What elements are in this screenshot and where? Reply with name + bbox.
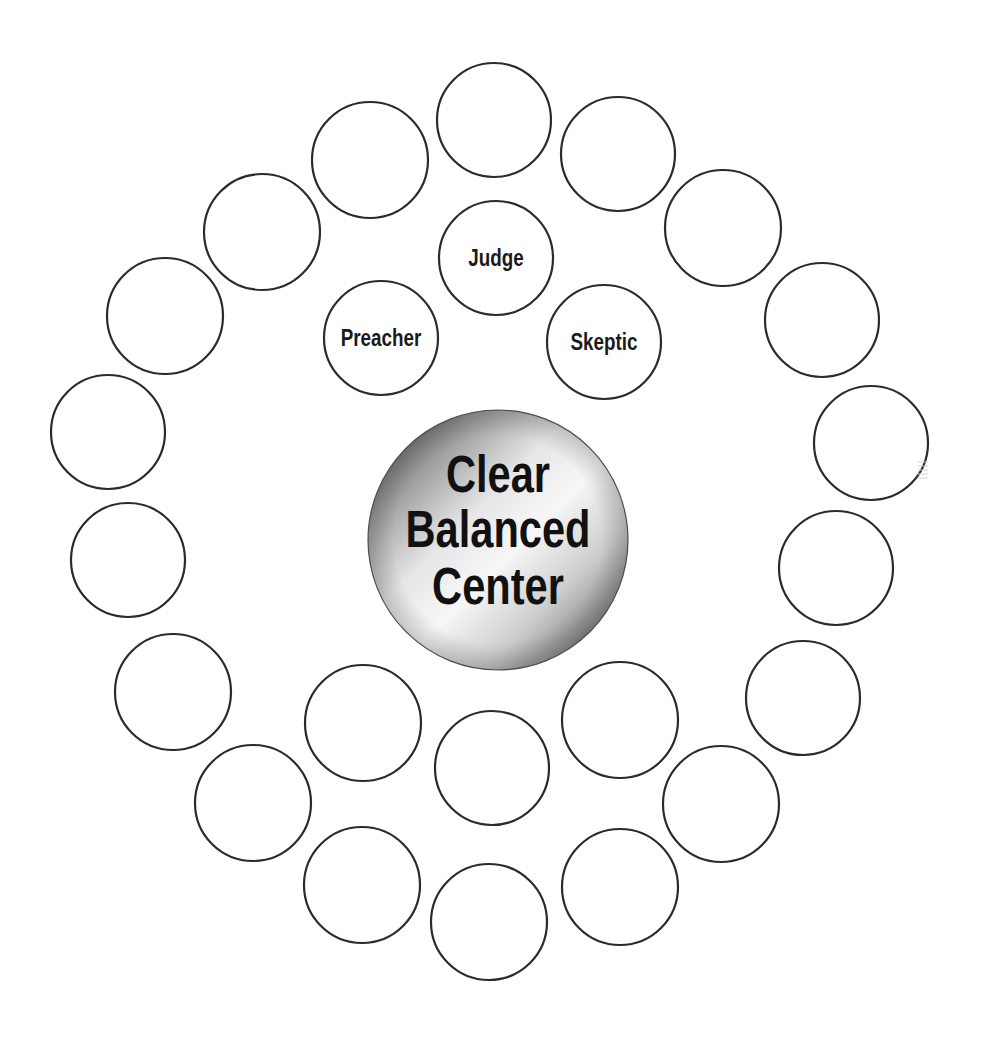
empty-circle [195, 745, 311, 861]
center-sphere-group: Clear Balanced Center [368, 410, 628, 670]
empty-circle [779, 511, 893, 625]
empty-circle [765, 263, 879, 377]
empty-circle [437, 63, 551, 177]
empty-circle [115, 634, 231, 750]
role-circle-judge: Judge [439, 201, 553, 315]
center-label-line-2: Balanced [406, 500, 591, 559]
empty-circle [561, 97, 675, 211]
empty-circle [312, 102, 428, 218]
balanced-center-diagram: Judge Preacher Skeptic Clear Balanced Ce… [0, 0, 992, 1040]
empty-circle [665, 170, 781, 286]
empty-circle [663, 746, 779, 862]
empty-circle [71, 503, 185, 617]
empty-circle [562, 662, 678, 778]
role-circle-skeptic: Skeptic [547, 285, 661, 399]
empty-circle [305, 665, 421, 781]
empty-circle [51, 375, 165, 489]
empty-circle [107, 258, 223, 374]
role-circles-group: Judge Preacher Skeptic [324, 201, 661, 399]
center-label-line-1: Clear [446, 445, 550, 504]
skeptic-label: Skeptic [570, 329, 637, 354]
role-circle-preacher: Preacher [324, 281, 438, 395]
preacher-label: Preacher [341, 325, 422, 350]
empty-circle [562, 829, 678, 945]
empty-circle [204, 174, 320, 290]
empty-circle [431, 864, 547, 980]
empty-circle [435, 711, 549, 825]
judge-label: Judge [468, 245, 523, 270]
center-label-line-3: Center [432, 557, 564, 616]
empty-circle [304, 827, 420, 943]
empty-circle [814, 386, 928, 500]
empty-circle [746, 641, 860, 755]
